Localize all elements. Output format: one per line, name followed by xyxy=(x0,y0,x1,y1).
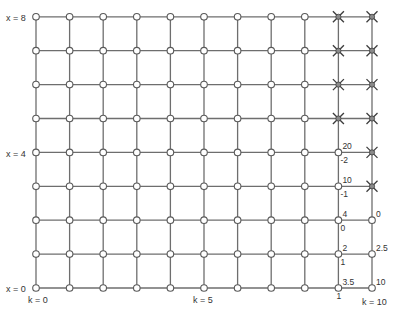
grid-node-icon xyxy=(33,47,40,54)
grid-node-icon xyxy=(134,149,141,156)
grid-node-icon xyxy=(302,81,309,88)
grid-node-icon xyxy=(302,13,309,20)
grid-node-icon xyxy=(234,149,241,156)
node-values: 20-210-140213.5102.510 xyxy=(336,141,388,301)
grid-node-icon xyxy=(369,251,376,258)
grid-node-icon xyxy=(234,47,241,54)
grid-node-icon xyxy=(167,251,174,258)
grid-node-icon xyxy=(167,115,174,122)
grid-node-icon xyxy=(302,115,309,122)
grid-node-icon xyxy=(66,115,73,122)
lattice-grid: 20-210-140213.5102.510 xyxy=(0,0,394,312)
node-value-above: 2.5 xyxy=(376,243,388,253)
grid-node-icon xyxy=(201,115,208,122)
grid-node-icon xyxy=(33,149,40,156)
grid-node-icon xyxy=(167,13,174,20)
grid-node-icon xyxy=(302,183,309,190)
grid-node-icon xyxy=(268,285,275,292)
grid-node-icon xyxy=(201,217,208,224)
grid-node-icon xyxy=(201,81,208,88)
node-value-below: -1 xyxy=(340,189,348,199)
node-value-below: -2 xyxy=(340,155,348,165)
node-value-below: 1 xyxy=(336,291,341,301)
grid-node-icon xyxy=(201,183,208,190)
grid-node-icon xyxy=(100,47,107,54)
grid-node-icon xyxy=(234,285,241,292)
grid-node-icon xyxy=(66,217,73,224)
grid-node-icon xyxy=(134,251,141,258)
grid-node-icon xyxy=(167,81,174,88)
node-value-above: 4 xyxy=(342,209,347,219)
grid-node-icon xyxy=(66,183,73,190)
grid-node-icon xyxy=(66,47,73,54)
grid-node-icon xyxy=(33,115,40,122)
grid-node-icon xyxy=(234,13,241,20)
grid-node-icon xyxy=(302,47,309,54)
grid-node-icon xyxy=(201,13,208,20)
grid-node-icon xyxy=(369,217,376,224)
grid-node-icon xyxy=(234,183,241,190)
grid-node-icon xyxy=(268,183,275,190)
grid-node-icon xyxy=(33,183,40,190)
grid-node-icon xyxy=(100,183,107,190)
node-value-above: 10 xyxy=(376,277,386,287)
grid-node-icon xyxy=(134,217,141,224)
node-value-below: 1 xyxy=(340,257,345,267)
node-value-above: 0 xyxy=(376,209,381,219)
grid-node-icon xyxy=(33,13,40,20)
grid-node-icon xyxy=(66,285,73,292)
grid-node-icon xyxy=(100,115,107,122)
grid-node-icon xyxy=(100,13,107,20)
grid-node-icon xyxy=(100,251,107,258)
grid-node-icon xyxy=(268,13,275,20)
grid-node-icon xyxy=(167,285,174,292)
grid-node-icon xyxy=(33,285,40,292)
grid-node-icon xyxy=(33,81,40,88)
grid-node-icon xyxy=(268,81,275,88)
grid-node-icon xyxy=(201,251,208,258)
node-value-above: 2 xyxy=(342,243,347,253)
grid-node-icon xyxy=(302,149,309,156)
grid-node-icon xyxy=(167,217,174,224)
grid-node-icon xyxy=(201,149,208,156)
grid-node-icon xyxy=(234,251,241,258)
grid-node-icon xyxy=(268,251,275,258)
grid-node-icon xyxy=(100,285,107,292)
grid-node-icon xyxy=(234,115,241,122)
grid-node-icon xyxy=(268,149,275,156)
node-value-above: 3.5 xyxy=(342,277,354,287)
grid-node-icon xyxy=(369,285,376,292)
grid-node-icon xyxy=(100,81,107,88)
grid-node-icon xyxy=(268,115,275,122)
grid-node-icon xyxy=(134,285,141,292)
grid-node-icon xyxy=(134,13,141,20)
grid-diagram: 20-210-140213.5102.510 x = 8 x = 4 x = 0… xyxy=(0,0,394,312)
grid-node-icon xyxy=(302,217,309,224)
grid-node-icon xyxy=(268,47,275,54)
grid-node-icon xyxy=(167,149,174,156)
node-value-above: 20 xyxy=(342,141,352,151)
grid-node-icon xyxy=(234,217,241,224)
grid-node-icon xyxy=(33,217,40,224)
grid-node-icon xyxy=(100,149,107,156)
grid-node-icon xyxy=(167,47,174,54)
grid-node-icon xyxy=(302,251,309,258)
grid-node-icon xyxy=(167,183,174,190)
grid-node-icon xyxy=(134,47,141,54)
grid-node-icon xyxy=(66,13,73,20)
grid-nodes xyxy=(33,11,378,291)
grid-node-icon xyxy=(66,81,73,88)
grid-node-icon xyxy=(134,115,141,122)
grid-node-icon xyxy=(66,149,73,156)
node-value-below: 0 xyxy=(340,223,345,233)
grid-node-icon xyxy=(134,81,141,88)
grid-node-icon xyxy=(201,285,208,292)
node-value-above: 10 xyxy=(342,175,352,185)
grid-node-icon xyxy=(302,285,309,292)
grid-node-icon xyxy=(33,251,40,258)
grid-node-icon xyxy=(234,81,241,88)
grid-node-icon xyxy=(66,251,73,258)
grid-node-icon xyxy=(268,217,275,224)
grid-node-icon xyxy=(100,217,107,224)
grid-node-icon xyxy=(201,47,208,54)
